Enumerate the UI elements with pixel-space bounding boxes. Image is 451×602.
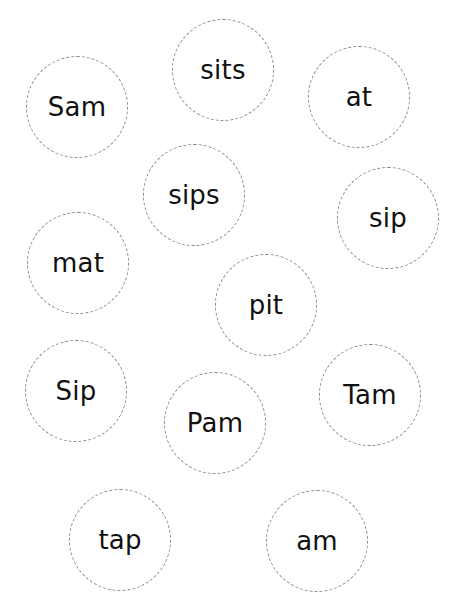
word-circle[interactable]: sips bbox=[143, 144, 245, 246]
word-label: mat bbox=[52, 250, 104, 276]
word-circle-worksheet: Sam sits at sips sip mat pit Sip Pam Tam… bbox=[0, 0, 451, 602]
word-circle[interactable]: Sip bbox=[25, 340, 127, 442]
word-label: pit bbox=[249, 292, 284, 318]
word-label: Sam bbox=[48, 94, 106, 120]
word-label: Pam bbox=[187, 410, 243, 436]
word-label: sip bbox=[369, 205, 407, 231]
word-label: Sip bbox=[56, 378, 97, 404]
word-label: sips bbox=[168, 182, 220, 208]
word-label: sits bbox=[200, 57, 245, 83]
word-label: tap bbox=[98, 527, 141, 553]
word-label: at bbox=[346, 84, 373, 110]
word-circle[interactable]: mat bbox=[27, 212, 129, 314]
word-circle[interactable]: am bbox=[266, 490, 368, 592]
word-circle[interactable]: at bbox=[308, 46, 410, 148]
word-label: Tam bbox=[343, 382, 396, 408]
word-circle[interactable]: sip bbox=[337, 167, 439, 269]
word-circle[interactable]: sits bbox=[172, 19, 274, 121]
word-label: am bbox=[296, 528, 338, 554]
word-circle[interactable]: Sam bbox=[26, 56, 128, 158]
word-circle[interactable]: tap bbox=[69, 489, 171, 591]
word-circle[interactable]: Pam bbox=[164, 372, 266, 474]
word-circle[interactable]: Tam bbox=[319, 344, 421, 446]
word-circle[interactable]: pit bbox=[215, 254, 317, 356]
